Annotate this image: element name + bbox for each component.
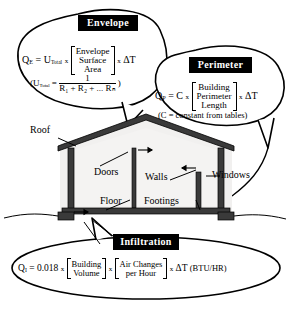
perimeter-note: (C = constant from tables) (158, 111, 247, 120)
infiltration-equation: QI = 0.018 x Building Volume x Air Chang… (18, 258, 227, 279)
envelope-u-total: UTotal (44, 54, 62, 65)
perimeter-bracket-group: Building Perimeter Length (192, 82, 237, 111)
infiltration-bracket-group-2: Air Changes per Hour (115, 258, 168, 279)
perimeter-constant-c: C (176, 90, 183, 101)
house-label-doors: Doors (94, 167, 118, 177)
envelope-chip: Envelope (78, 15, 138, 31)
house-label-footings: Footings (144, 196, 179, 206)
envelope-eq-sign: = (36, 54, 42, 65)
envelope-equation: QE = UTotal x Envelope Surface Area x ΔT (22, 46, 136, 75)
infiltration-times-1: x (61, 265, 65, 273)
envelope-sub-eq-sign: = (52, 78, 57, 88)
envelope-fraction-denominator: R₁ + R₂ + ... Rₙ (59, 83, 115, 93)
envelope-sub-symbol: UTotal (33, 78, 50, 88)
perimeter-times-2: x (239, 93, 243, 101)
infiltration-bracket-group-1: Building Volume (67, 258, 107, 279)
envelope-fraction-numerator: 1 (59, 74, 115, 83)
house-label-floor: Floor (100, 196, 122, 206)
perimeter-bracket-line-3: Length (201, 100, 227, 110)
perimeter-delta-t: ΔT (245, 90, 258, 101)
infiltration-b2-line-2: per Hour (126, 268, 156, 278)
house-label-roof: Roof (30, 125, 50, 135)
infiltration-b1-line-2: Volume (73, 268, 99, 278)
envelope-sub-close-paren: ) (118, 78, 121, 88)
envelope-lhs: QE (22, 54, 33, 65)
perimeter-eq-sign: = (168, 90, 174, 101)
infiltration-constant: 0.018 (37, 263, 58, 273)
envelope-times-1: x (65, 57, 69, 65)
infiltration-times-2: x (109, 265, 113, 273)
envelope-times-2: x (117, 57, 121, 65)
perimeter-lhs: QP (155, 90, 166, 101)
perimeter-times-1: x (186, 93, 190, 101)
envelope-delta-t: ΔT (123, 54, 136, 65)
perimeter-chip: Perimeter (189, 57, 252, 73)
perimeter-equation: QP = C x Building Perimeter Length x ΔT (155, 82, 258, 111)
infiltration-eq-sign: = (29, 263, 34, 273)
envelope-u-fraction: 1 R₁ + R₂ + ... Rₙ (59, 74, 115, 94)
diagram-canvas: Envelope QE = UTotal x Envelope Surface … (0, 0, 289, 310)
infiltration-units: (BTU/HR) (190, 263, 227, 273)
infiltration-times-3: x (170, 265, 174, 273)
infiltration-chip: Infiltration (113, 234, 179, 250)
envelope-sub-equation: (UTotal = 1 R₁ + R₂ + ... Rₙ ) (30, 74, 121, 94)
infiltration-lhs: QI (18, 263, 27, 273)
infiltration-delta-t: ΔT (176, 263, 188, 273)
house-label-windows: Windows (212, 170, 250, 180)
house-label-walls: Walls (145, 172, 168, 182)
envelope-bracket-group: Envelope Surface Area (71, 46, 115, 75)
